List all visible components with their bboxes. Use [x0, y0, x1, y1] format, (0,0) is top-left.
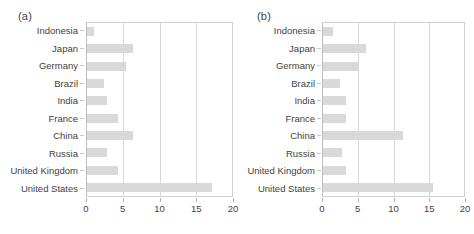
gridline-10	[394, 23, 395, 196]
category-label: Brazil	[237, 75, 321, 93]
y-tick	[80, 48, 84, 49]
gridline-5	[123, 23, 124, 196]
category-label: Japan	[0, 40, 84, 58]
category-label: United States	[237, 180, 321, 198]
bar[interactable]	[87, 114, 118, 123]
category-label: Indonesia	[0, 22, 84, 40]
y-tick	[80, 188, 84, 189]
category-label: Indonesia	[237, 22, 321, 40]
y-tick	[317, 170, 321, 171]
panel-a-plot: IndonesiaJapanGermanyBrazilIndiaFranceCh…	[0, 0, 237, 234]
y-tick	[80, 30, 84, 31]
y-tick	[317, 48, 321, 49]
x-tick-label: 15	[424, 203, 435, 214]
x-tick-label: 0	[83, 203, 88, 214]
gridline-15	[196, 23, 197, 196]
figure-two-panel-bar-charts: (a) IndonesiaJapanGermanyBrazilIndiaFran…	[0, 0, 474, 234]
bar[interactable]	[323, 183, 433, 192]
bar[interactable]	[87, 79, 104, 88]
category-label: Russia	[0, 145, 84, 163]
y-tick	[317, 83, 321, 84]
category-label: Japan	[237, 40, 321, 58]
panel-a-x-axis: 05101520	[86, 198, 233, 220]
y-tick	[317, 153, 321, 154]
bar[interactable]	[323, 27, 333, 36]
bar[interactable]	[87, 27, 94, 36]
category-label: United States	[0, 180, 84, 198]
bar[interactable]	[87, 62, 126, 71]
y-tick	[317, 118, 321, 119]
y-tick	[80, 170, 84, 171]
x-tick	[196, 198, 197, 202]
x-tick	[86, 198, 87, 202]
x-tick	[322, 198, 323, 202]
bar[interactable]	[87, 166, 118, 175]
gridline-10	[160, 23, 161, 196]
x-tick-label: 10	[388, 203, 399, 214]
y-tick	[80, 65, 84, 66]
x-tick-label: 10	[154, 203, 165, 214]
x-tick	[394, 198, 395, 202]
category-label: Germany	[0, 57, 84, 75]
bar[interactable]	[87, 96, 107, 105]
bar[interactable]	[87, 44, 133, 53]
x-tick	[465, 198, 466, 202]
y-tick	[317, 188, 321, 189]
x-tick-label: 15	[191, 203, 202, 214]
category-label: United Kingdom	[237, 162, 321, 180]
category-label: Russia	[237, 145, 321, 163]
category-label: India	[237, 92, 321, 110]
bar[interactable]	[323, 44, 366, 53]
y-tick	[80, 118, 84, 119]
y-tick	[80, 153, 84, 154]
bar[interactable]	[323, 131, 403, 140]
x-tick	[358, 198, 359, 202]
y-tick	[80, 135, 84, 136]
x-tick-label: 5	[120, 203, 125, 214]
category-label: Brazil	[0, 75, 84, 93]
category-label: France	[0, 110, 84, 128]
y-tick	[317, 100, 321, 101]
panel-b: (b) IndonesiaJapanGermanyBrazilIndiaFran…	[237, 0, 474, 234]
x-tick-label: 20	[460, 203, 471, 214]
category-label: United Kingdom	[0, 162, 84, 180]
bar[interactable]	[323, 79, 340, 88]
panel-b-x-axis: 05101520	[322, 198, 465, 220]
y-tick	[317, 30, 321, 31]
y-tick	[80, 83, 84, 84]
category-label: China	[0, 127, 84, 145]
category-label: China	[237, 127, 321, 145]
category-label: France	[237, 110, 321, 128]
bar[interactable]	[87, 148, 107, 157]
panel-a-axes	[86, 22, 233, 197]
category-label: India	[0, 92, 84, 110]
y-tick	[317, 65, 321, 66]
x-tick	[123, 198, 124, 202]
bar[interactable]	[323, 148, 342, 157]
category-label: Germany	[237, 57, 321, 75]
panel-a: (a) IndonesiaJapanGermanyBrazilIndiaFran…	[0, 0, 237, 234]
x-tick-label: 0	[319, 203, 324, 214]
y-tick	[317, 135, 321, 136]
gridline-15	[429, 23, 430, 196]
panel-b-plot: IndonesiaJapanGermanyBrazilIndiaFranceCh…	[237, 0, 474, 234]
y-tick	[80, 100, 84, 101]
bar[interactable]	[323, 96, 346, 105]
panel-b-axes	[322, 22, 465, 197]
panel-a-category-labels: IndonesiaJapanGermanyBrazilIndiaFranceCh…	[0, 22, 84, 197]
panel-b-category-labels: IndonesiaJapanGermanyBrazilIndiaFranceCh…	[237, 22, 321, 197]
bar[interactable]	[87, 131, 133, 140]
x-tick	[233, 198, 234, 202]
bar[interactable]	[323, 62, 358, 71]
x-tick	[160, 198, 161, 202]
bar[interactable]	[323, 114, 346, 123]
bar[interactable]	[323, 166, 346, 175]
bar[interactable]	[87, 183, 212, 192]
x-tick-label: 5	[355, 203, 360, 214]
gridline-5	[358, 23, 359, 196]
x-tick	[429, 198, 430, 202]
